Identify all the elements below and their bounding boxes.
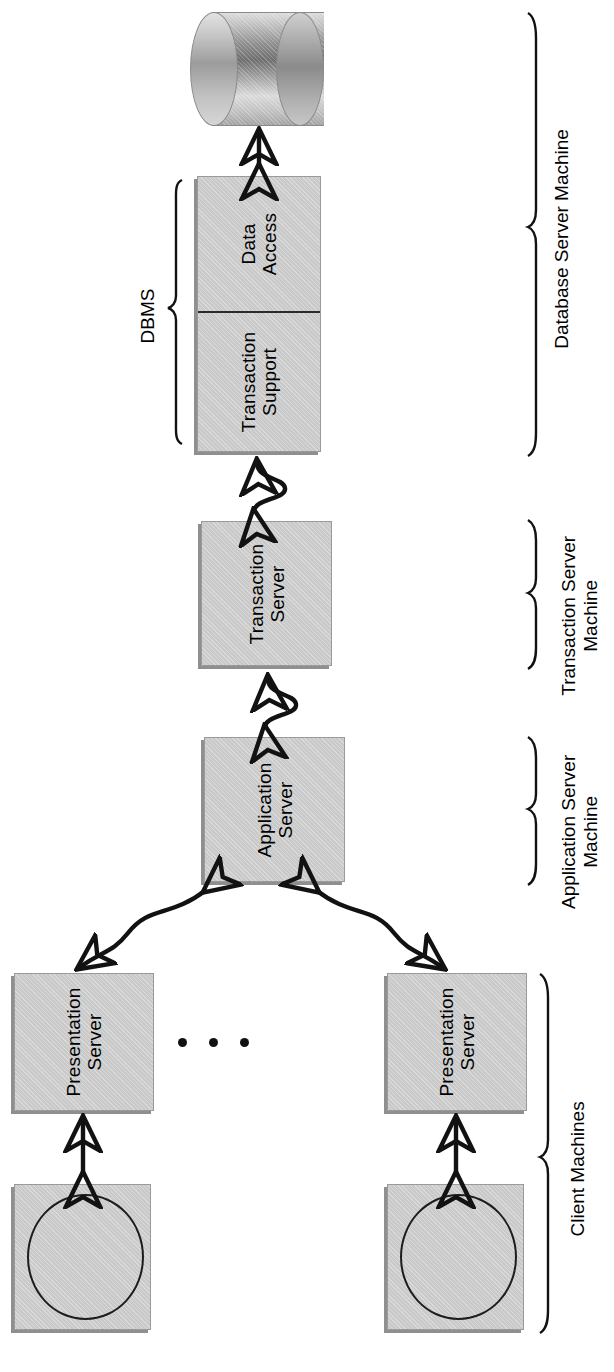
dbms-brace-text: DBMS: [137, 288, 158, 343]
application-server-machine-line2: Machine: [580, 796, 601, 868]
brace-application-server-machine: [528, 737, 536, 885]
brace-label-client-machines: Client Machines: [567, 1074, 589, 1264]
transaction-server-machine-line1: Transaction Server: [558, 536, 579, 696]
brace-label-transaction-server-machine: Transaction Server Machine: [558, 501, 602, 731]
brace-label-database-server-machine: Database Server Machine: [551, 94, 573, 384]
connector-appserver-to-txserver: [265, 679, 296, 729]
brace-dbms: [168, 180, 182, 444]
connector-presentation2-to-appserver: [316, 890, 442, 967]
brace-transaction-server-machine: [528, 520, 536, 669]
connector-txserver-to-dbms: [254, 463, 285, 513]
connector-overlay: [0, 0, 614, 1372]
brace-label-dbms: DBMS: [137, 251, 159, 381]
diagram-canvas: Data Access Transaction Support Transact…: [0, 0, 614, 1372]
application-server-machine-line1: Application Server: [558, 755, 579, 909]
brace-database-server-machine: [528, 13, 536, 456]
transaction-server-machine-line2: Machine: [580, 580, 601, 652]
brace-label-application-server-machine: Application Server Machine: [558, 717, 602, 947]
brace-client-machines: [540, 974, 548, 1333]
client-machines-text: Client Machines: [567, 1101, 588, 1236]
database-server-machine-text: Database Server Machine: [551, 129, 572, 349]
connector-presentation1-to-appserver: [80, 890, 206, 967]
